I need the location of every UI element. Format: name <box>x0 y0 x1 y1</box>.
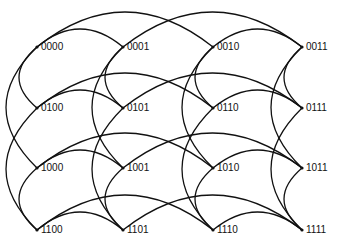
node-dot <box>35 45 38 48</box>
node-dot <box>211 106 214 109</box>
node-dot <box>211 166 214 169</box>
node-dot <box>300 45 303 48</box>
node-label: 1010 <box>217 163 239 173</box>
node-dot <box>211 45 214 48</box>
node-label: 1000 <box>41 163 63 173</box>
edge-arc <box>123 195 302 230</box>
edge-arc <box>92 108 123 230</box>
edge-arc <box>92 47 123 168</box>
node-label: 0000 <box>41 42 63 52</box>
node-label: 1101 <box>127 225 149 235</box>
node-dot <box>300 228 303 231</box>
edge-arc <box>123 73 302 108</box>
edge-arc <box>37 73 213 108</box>
node-dot <box>35 106 38 109</box>
node-dot <box>121 45 124 48</box>
node-dot <box>300 166 303 169</box>
node-label: 1111 <box>306 225 326 235</box>
node-label: 1110 <box>217 225 238 235</box>
edge-arc <box>37 195 213 230</box>
node-dot <box>300 106 303 109</box>
node-label: 0010 <box>217 42 239 52</box>
node-label: 0110 <box>217 103 239 113</box>
node-label: 1100 <box>41 225 63 235</box>
hypercube-diagram: 0000 0001 0010 0011 0100 0101 0110 0111 … <box>0 0 341 248</box>
edge-arc <box>6 108 37 230</box>
edge-arc <box>123 12 302 47</box>
node-dot <box>35 228 38 231</box>
node-dot <box>121 106 124 109</box>
node-label: 0011 <box>306 42 328 52</box>
node-label: 1001 <box>127 163 149 173</box>
edge-arc <box>123 133 302 168</box>
edge-arc <box>37 12 213 47</box>
node-label: 0001 <box>127 42 149 52</box>
edge-arc <box>37 133 213 168</box>
node-dot <box>211 228 214 231</box>
edge-layer <box>0 0 341 248</box>
node-dot <box>35 166 38 169</box>
node-dot <box>121 228 124 231</box>
edge-arc <box>6 47 37 168</box>
node-label: 0111 <box>306 103 327 113</box>
node-label: 1011 <box>306 163 328 173</box>
node-label: 0100 <box>41 103 63 113</box>
node-label: 0101 <box>127 103 149 113</box>
node-dot <box>121 166 124 169</box>
